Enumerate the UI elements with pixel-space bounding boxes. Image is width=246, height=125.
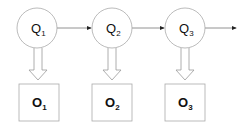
state-node-q3: Q3 [165, 8, 205, 48]
hmm-diagram: Q1 Q2 Q3 O1 O2 O3 [0, 0, 246, 125]
emission-arrow-q3-o3 [176, 48, 194, 80]
state-node-q1: Q1 [17, 8, 57, 48]
emission-arrow-q2-o2 [103, 48, 121, 80]
emission-arrow-q1-o1 [29, 48, 47, 80]
observation-node-o1: O1 [19, 84, 59, 121]
observation-node-o3: O3 [165, 84, 205, 121]
observation-node-o2: O2 [92, 84, 132, 121]
state-node-q2: Q2 [92, 8, 132, 48]
